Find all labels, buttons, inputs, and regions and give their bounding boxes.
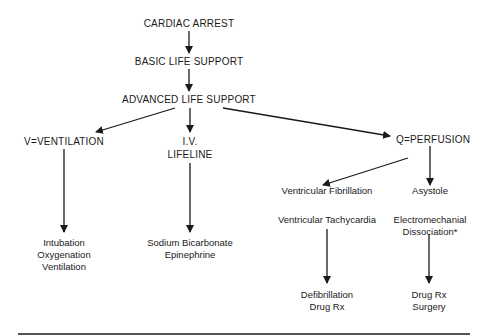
node-ventilation: V=VENTILATION xyxy=(14,135,114,148)
node-cardiac-arrest: CARDIAC ARREST xyxy=(139,17,239,30)
node-iv-lifeline-line2: LIFELINE xyxy=(160,148,220,161)
asystole-action: Surgery xyxy=(399,300,459,313)
node-iv-lifeline-line1: I.V. xyxy=(160,135,220,148)
node-asystole: Asystole xyxy=(400,184,460,197)
iv-action: Epinephrine xyxy=(135,248,245,261)
vf-action: Drug Rx xyxy=(287,300,367,313)
node-ventricular-fibrillation: Ventricular Fibrillation xyxy=(262,184,392,197)
node-advanced-life-support: ADVANCED LIFE SUPPORT xyxy=(114,93,264,106)
connector-arrows xyxy=(0,0,485,335)
node-basic-life-support: BASIC LIFE SUPPORT xyxy=(124,55,254,68)
node-perfusion: Q=PERFUSION xyxy=(388,133,478,146)
ventilation-action: Ventilation xyxy=(24,260,104,273)
node-emd-line2: Dissociation* xyxy=(385,225,475,238)
node-ventricular-tachycardia: Ventricular Tachycardia xyxy=(262,213,392,226)
